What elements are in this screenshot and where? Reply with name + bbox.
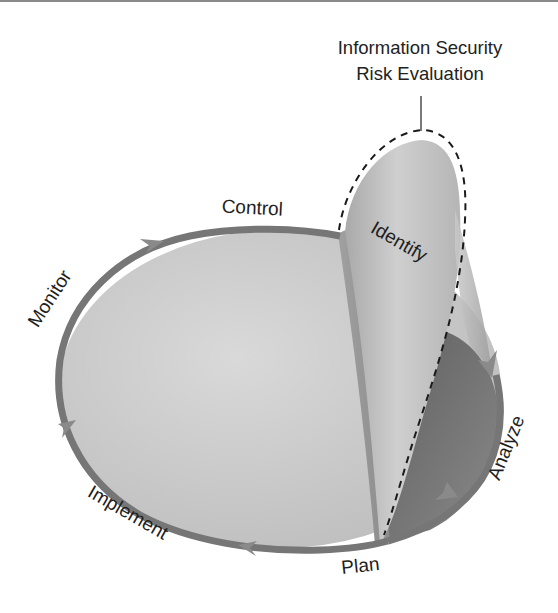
stage-label-monitor: Monitor	[23, 266, 75, 331]
stage-label-control: Control	[221, 195, 283, 219]
title-line-2: Risk Evaluation	[356, 63, 484, 84]
risk-cycle-diagram: Information Security Risk Evaluation Con…	[0, 0, 558, 613]
title-line-1: Information Security	[338, 37, 503, 58]
stage-label-plan: Plan	[340, 553, 380, 578]
